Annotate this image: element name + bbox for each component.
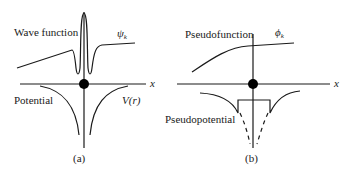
wave-function-label: Wave function xyxy=(14,26,79,38)
panel-b: x Pseudofunction ϕk Pseudopotential (b) xyxy=(165,26,339,165)
caption-b: (b) xyxy=(245,152,258,165)
nucleus-dot-b xyxy=(248,79,258,89)
pseudofunction-curve xyxy=(192,43,294,72)
pseudofunction-label: Pseudofunction xyxy=(185,28,254,40)
x-axis-label-a: x xyxy=(149,77,155,89)
panel-a: x Wave function ψk Potential V(r) (a) xyxy=(14,12,155,165)
x-axis-label-b: x xyxy=(333,77,339,89)
potential-label: Potential xyxy=(14,94,53,106)
pseudopotential-diagram: x Wave function ψk Potential V(r) (a) x … xyxy=(0,0,348,173)
v-r-label: V(r) xyxy=(122,94,141,107)
wave-function-curve xyxy=(17,13,135,74)
caption-a: (a) xyxy=(73,152,86,165)
psi-k-label: ψk xyxy=(117,27,128,41)
true-potential-dashed-right xyxy=(257,113,268,144)
true-potential-dashed-left xyxy=(240,113,250,144)
pseudopotential-label: Pseudopotential xyxy=(165,113,235,125)
nucleus-dot-a xyxy=(79,79,89,89)
phi-k-label: ϕk xyxy=(275,26,285,40)
pseudopotential-curve xyxy=(200,91,300,113)
